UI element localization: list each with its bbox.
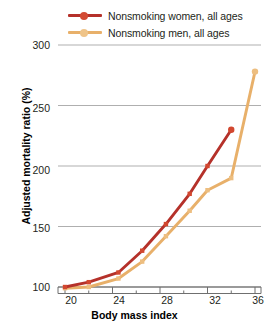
data-point-marker — [140, 259, 144, 263]
data-point-marker — [164, 234, 168, 238]
data-point-marker — [63, 285, 67, 289]
data-point-marker — [116, 276, 120, 280]
data-point-marker — [87, 280, 91, 284]
data-point-marker — [116, 270, 120, 274]
data-point-marker — [205, 188, 209, 192]
series-endpoint-marker — [228, 127, 234, 133]
data-point-marker — [164, 222, 168, 226]
data-point-marker — [205, 164, 209, 168]
data-point-marker — [87, 285, 91, 289]
series-line-men — [65, 72, 255, 289]
data-point-marker — [187, 192, 191, 196]
data-point-marker — [229, 176, 233, 180]
data-point-marker — [187, 209, 191, 213]
data-series-group — [63, 68, 258, 290]
plot-area — [0, 0, 269, 332]
series-endpoint-marker — [252, 68, 258, 74]
series-line-women — [65, 130, 231, 287]
data-point-marker — [140, 249, 144, 253]
gridlines — [58, 45, 261, 287]
chart-figure: Nonsmoking women, all ages Nonsmoking me… — [0, 0, 269, 332]
